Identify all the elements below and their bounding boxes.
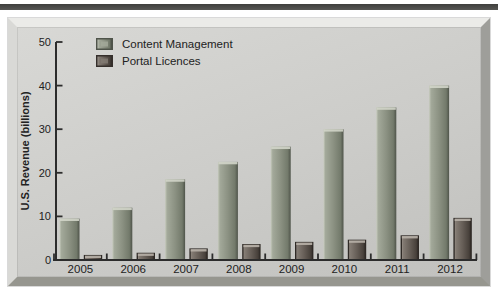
year-label-2010: 2010 (332, 263, 358, 275)
legend-label-portal-licences: Portal Licences (122, 55, 201, 67)
bar-portal-licences-2009 (296, 243, 313, 260)
y-tick-label-30: 30 (39, 123, 51, 135)
bar-top-highlight (455, 219, 471, 221)
y-tick-label-20: 20 (39, 167, 51, 179)
year-label-2007: 2007 (173, 263, 199, 275)
legend-label-content-management: Content Management (122, 38, 233, 50)
bar-portal-licences-2011 (401, 236, 418, 260)
y-tick-label-0: 0 (45, 254, 51, 266)
bar-content-management-2011 (376, 107, 396, 260)
bar-content-management-2005 (60, 219, 80, 260)
bar-top-highlight (166, 179, 185, 181)
figure-scan: 0102030405020052006200720082009201020112… (0, 0, 498, 293)
bar-top-highlight (243, 245, 259, 247)
bar-content-management-2007 (165, 179, 185, 260)
y-axis-title: U.S. Revenue (billions) (19, 91, 31, 211)
bar-top-highlight (60, 219, 79, 221)
bar-top-highlight (296, 243, 312, 245)
bar-top-highlight (430, 86, 449, 88)
bar-top-highlight (324, 129, 343, 131)
bar-top-highlight (85, 256, 101, 258)
year-label-2009: 2009 (279, 263, 305, 275)
bar-top-highlight (113, 208, 132, 210)
year-label-2008: 2008 (226, 263, 252, 275)
year-label-2005: 2005 (68, 263, 94, 275)
bar-top-highlight (138, 253, 154, 255)
year-label-2011: 2011 (385, 263, 410, 275)
revenue-bar-chart: 0102030405020052006200720082009201020112… (0, 0, 498, 293)
bar-content-management-2010 (324, 129, 344, 260)
bar-content-management-2006 (112, 208, 132, 260)
bar-top-highlight (271, 147, 290, 149)
bar-top-highlight (349, 240, 365, 242)
year-label-2006: 2006 (120, 263, 146, 275)
bar-top-highlight (191, 249, 207, 251)
bar-top-highlight (402, 236, 418, 238)
y-tick-label-50: 50 (39, 36, 51, 48)
bar-content-management-2012 (429, 86, 449, 260)
bar-top-highlight (218, 162, 237, 164)
bar-portal-licences-2010 (349, 240, 366, 260)
legend-item-portal-licences: Portal Licences (96, 55, 201, 67)
y-tick-label-40: 40 (39, 80, 51, 92)
bar-content-management-2008 (218, 162, 238, 260)
legend-item-content-management: Content Management (96, 38, 233, 50)
bar-content-management-2009 (271, 147, 291, 260)
year-label-2012: 2012 (437, 263, 463, 275)
y-tick-label-10: 10 (39, 210, 51, 222)
bar-portal-licences-2012 (454, 219, 471, 260)
bar-top-highlight (377, 107, 396, 109)
